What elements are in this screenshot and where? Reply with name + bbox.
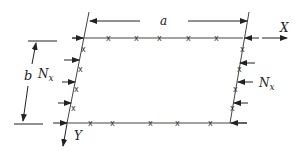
right-load-arrows — [231, 38, 259, 123]
svg-text:x: x — [134, 34, 139, 43]
left-load-arrows — [53, 38, 83, 123]
svg-text:x: x — [78, 65, 83, 74]
svg-text:x: x — [71, 104, 76, 113]
svg-text:x: x — [148, 119, 153, 128]
svg-text:x: x — [81, 45, 86, 54]
plate-outline — [60, 12, 249, 123]
label-Y: Y — [74, 129, 83, 143]
edge-markers-left: x x x x — [71, 45, 86, 113]
svg-text:x: x — [110, 119, 115, 128]
label-Nx-right: Nx — [258, 76, 275, 92]
svg-text:x: x — [157, 34, 162, 43]
y-axis-arrow — [63, 124, 67, 146]
svg-text:x: x — [237, 65, 242, 74]
svg-text:x: x — [230, 104, 235, 113]
svg-text:x: x — [175, 119, 180, 128]
svg-text:x: x — [186, 34, 191, 43]
svg-text:x: x — [88, 119, 93, 128]
svg-text:x: x — [233, 85, 238, 94]
label-Nx-left: Nx — [37, 67, 54, 83]
label-a: a — [160, 14, 167, 28]
svg-text:x: x — [74, 85, 79, 94]
label-b: b — [24, 68, 32, 83]
skew-plate-diagram: a b X Y Nx Nx x x x x x — [0, 0, 303, 151]
svg-text:x: x — [208, 119, 213, 128]
svg-text:x: x — [214, 34, 219, 43]
label-X: X — [279, 21, 289, 35]
svg-text:x: x — [240, 45, 245, 54]
svg-text:x: x — [106, 34, 111, 43]
